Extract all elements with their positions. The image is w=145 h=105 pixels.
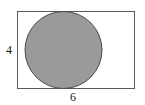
inscribed-circle	[25, 12, 102, 89]
width-dimension-label: 6	[64, 91, 82, 103]
geometry-figure: 4 6	[0, 0, 145, 105]
height-dimension-label: 4	[2, 44, 16, 56]
